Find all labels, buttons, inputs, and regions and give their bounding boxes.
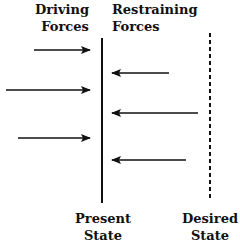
force-field-diagram: Driving Forces Restraining Forces Presen… [0,0,240,245]
driving-label-line2: Forces [22,18,102,35]
desired-label-line2: State [178,227,240,244]
present-state-label: Present State [70,210,136,244]
restraining-label-line1: Restraining [112,1,198,18]
desired-state-label: Desired State [178,210,240,244]
driving-forces-label: Driving Forces [22,1,102,35]
restraining-forces-label: Restraining Forces [112,1,198,35]
diagram-graphics [0,0,240,245]
driving-label-line1: Driving [22,1,102,18]
present-label-line1: Present [70,210,136,227]
desired-label-line1: Desired [178,210,240,227]
present-label-line2: State [70,227,136,244]
restraining-label-line2: Forces [112,18,198,35]
